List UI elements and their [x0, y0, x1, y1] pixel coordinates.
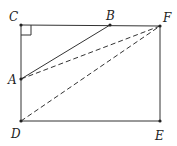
label-D: D [10, 127, 21, 141]
label-A: A [7, 73, 17, 87]
label-B: B [105, 9, 115, 23]
point-D [19, 119, 22, 122]
point-B [108, 23, 111, 26]
label-E: E [154, 129, 164, 143]
point-C [19, 23, 22, 26]
label-F: F [162, 11, 172, 25]
segment-DF-dashed [21, 26, 160, 121]
right-angle-marker [21, 25, 31, 35]
geometry-diagram: C B F A D E [0, 0, 177, 146]
point-E [158, 119, 161, 122]
segment-AB [21, 25, 110, 79]
segment-CF [21, 25, 160, 26]
segment-AF-dashed [21, 26, 160, 79]
point-F [158, 24, 161, 27]
label-C: C [9, 10, 18, 24]
point-A [19, 77, 22, 80]
